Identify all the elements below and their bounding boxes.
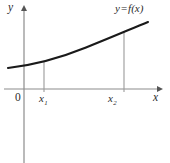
y-axis-arrowhead: [21, 5, 27, 11]
curve-equation-label: y=f(x): [115, 3, 143, 14]
origin-label: 0: [15, 92, 21, 104]
function-curve: [8, 22, 148, 68]
function-graph-figure: y x 0 x1 x2 y=f(x): [0, 0, 170, 163]
curve-label-equals: =: [120, 2, 128, 14]
x2-label: x2: [108, 93, 116, 104]
x-axis-label: x: [153, 92, 158, 104]
y-axis-label: y: [8, 2, 13, 14]
x1-label: x1: [39, 93, 47, 104]
x2-label-subscript: 2: [113, 99, 116, 106]
graph-canvas: [0, 0, 170, 163]
curve-label-fx: f(x): [128, 2, 143, 14]
x1-label-subscript: 1: [44, 99, 47, 106]
